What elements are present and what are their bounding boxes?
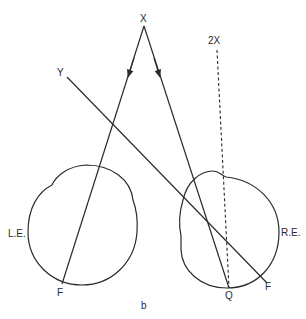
panel-label: b <box>141 300 147 311</box>
right-eye-outline <box>180 171 279 288</box>
label-left-eye: L.E. <box>8 228 26 239</box>
arrow-left-icon <box>129 58 134 74</box>
label-right-eye: R.E. <box>281 227 300 238</box>
label-q: Q <box>225 290 233 301</box>
ray-y-to-right-f <box>67 77 267 283</box>
label-y: Y <box>57 67 64 78</box>
label-f-right: F <box>265 281 271 292</box>
label-2x: 2X <box>208 35 221 46</box>
left-eye-outline <box>28 165 137 285</box>
eye-diagram: X Y 2X L.E. R.E. F F Q b <box>0 0 306 319</box>
label-f-left: F <box>57 287 63 298</box>
label-x: X <box>140 13 147 24</box>
arrow-right-icon <box>154 58 159 74</box>
dashed-2x-to-q <box>217 50 229 288</box>
